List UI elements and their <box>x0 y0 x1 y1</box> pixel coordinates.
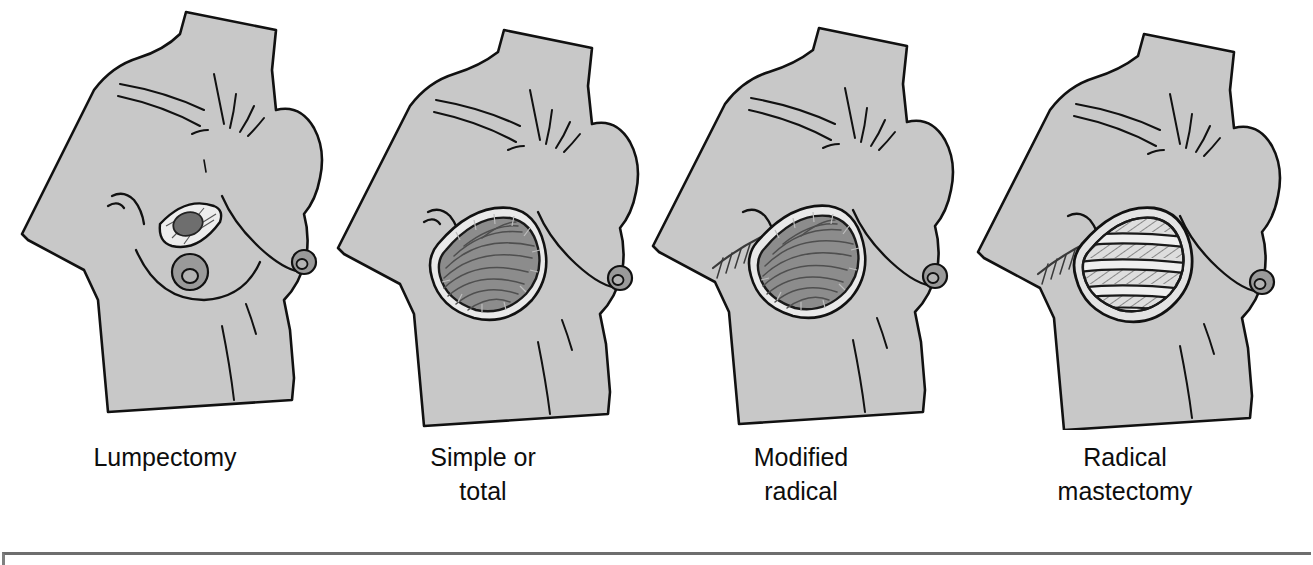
figure-modified-radical <box>639 0 969 430</box>
figure-lumpectomy <box>8 0 338 430</box>
caption-line-2: mastectomy <box>960 474 1290 508</box>
caption-lumpectomy: Lumpectomy <box>0 440 330 474</box>
caption-line-1: Simple or <box>430 443 536 471</box>
bottom-frame-border <box>2 552 1311 565</box>
right-nipple-areola <box>1250 270 1274 294</box>
caption-line-1: Modified <box>754 443 849 471</box>
caption-row: Lumpectomy Simple or total Modified radi… <box>0 440 1313 540</box>
caption-line-1: Radical <box>1083 443 1166 471</box>
left-nipple-areola <box>172 254 208 290</box>
right-nipple-areola <box>923 264 947 288</box>
caption-simple-or-total: Simple or total <box>318 440 648 508</box>
caption-modified-radical: Modified radical <box>636 440 966 508</box>
caption-line-2: radical <box>636 474 966 508</box>
right-nipple-areola <box>608 266 632 290</box>
figure-row <box>0 0 1313 430</box>
caption-line-2: total <box>318 474 648 508</box>
figure-simple-or-total <box>322 0 652 430</box>
figure-radical-mastectomy <box>958 0 1288 430</box>
right-nipple-areola <box>292 250 316 274</box>
caption-radical-mastectomy: Radical mastectomy <box>960 440 1290 508</box>
caption-line-1: Lumpectomy <box>93 443 236 471</box>
